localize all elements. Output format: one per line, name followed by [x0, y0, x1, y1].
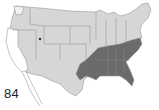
us-map — [0, 0, 159, 110]
dot-marker-icon — [39, 38, 42, 41]
baja-outline — [22, 72, 42, 106]
figure-label: 84 — [4, 86, 19, 101]
